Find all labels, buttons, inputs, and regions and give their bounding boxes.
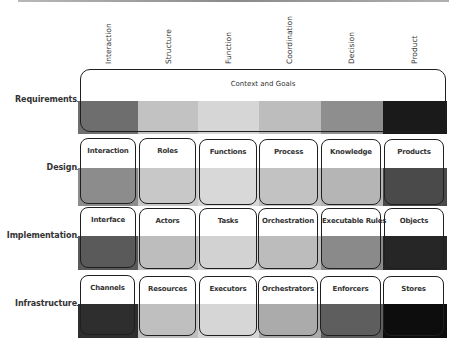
cell-label: Orchestrators bbox=[259, 285, 317, 293]
column-label: Decision bbox=[347, 32, 356, 64]
cell-label: Process bbox=[260, 148, 317, 156]
cell-design-knowledge: Knowledge bbox=[321, 139, 381, 205]
cell-label: Interaction bbox=[81, 147, 135, 155]
cell-label: Orchestration bbox=[259, 217, 317, 225]
cell-design-roles: Roles bbox=[139, 138, 196, 204]
cell-label: Resources bbox=[140, 285, 195, 293]
cell-impl-tasks: Tasks bbox=[199, 208, 257, 269]
cell-design-process: Process bbox=[259, 139, 318, 205]
cell-label: Executable Rules bbox=[322, 217, 380, 225]
cell-infra-enforcers: Enforcers bbox=[320, 276, 381, 336]
cell-label: Tasks bbox=[200, 217, 256, 225]
cell-label: Functions bbox=[200, 148, 256, 156]
cell-label: Enforcers bbox=[321, 285, 380, 293]
column-header-structure: Structure bbox=[138, 2, 198, 64]
cell-label: Actors bbox=[140, 217, 195, 225]
cell-label: Objects bbox=[385, 217, 443, 225]
row-label-infrastructure: Infrastructure bbox=[15, 299, 77, 308]
column-header-coordination: Coordination bbox=[259, 2, 319, 64]
cell-label: Knowledge bbox=[322, 148, 380, 156]
cell-infra-channels: Channels bbox=[80, 275, 135, 335]
cell-impl-objects: Objects bbox=[384, 208, 444, 269]
cell-label: Channels bbox=[81, 284, 134, 292]
column-header-product: Product bbox=[384, 2, 444, 64]
requirements-box: Context and Goals bbox=[80, 69, 446, 132]
context-and-goals-label: Context and Goals bbox=[81, 80, 445, 88]
cell-infra-orchestrators: Orchestrators bbox=[258, 276, 318, 336]
cell-label: Stores bbox=[384, 285, 443, 293]
column-label: Coordination bbox=[285, 16, 294, 64]
row-label-requirements: Requirements bbox=[15, 95, 77, 104]
cell-impl-orchestration: Orchestration bbox=[258, 208, 318, 269]
cell-label: Products bbox=[385, 148, 443, 156]
cell-design-functions: Functions bbox=[199, 139, 257, 205]
cell-infra-stores: Stores bbox=[383, 276, 444, 336]
cell-label: Roles bbox=[140, 147, 195, 155]
column-label: Interaction bbox=[104, 23, 113, 64]
column-header-interaction: Interaction bbox=[78, 2, 138, 64]
cell-label: Interface bbox=[81, 216, 135, 224]
column-label: Product bbox=[410, 36, 419, 64]
cell-impl-executable-rules: Executable Rules bbox=[321, 208, 381, 269]
column-header-function: Function bbox=[198, 2, 258, 64]
cell-infra-resources: Resources bbox=[139, 276, 196, 336]
cell-design-products: Products bbox=[384, 139, 444, 205]
cell-impl-actors: Actors bbox=[139, 208, 196, 269]
column-label: Structure bbox=[164, 29, 173, 64]
cell-label: Executors bbox=[200, 285, 256, 293]
column-header-decision: Decision bbox=[321, 2, 381, 64]
row-label-implementation: Implementation bbox=[7, 231, 77, 240]
column-label: Function bbox=[224, 32, 233, 64]
cell-design-interaction: Interaction bbox=[80, 138, 136, 204]
cell-infra-executors: Executors bbox=[199, 276, 257, 336]
cell-impl-interface: Interface bbox=[80, 207, 136, 268]
row-label-design: Design bbox=[47, 163, 77, 172]
